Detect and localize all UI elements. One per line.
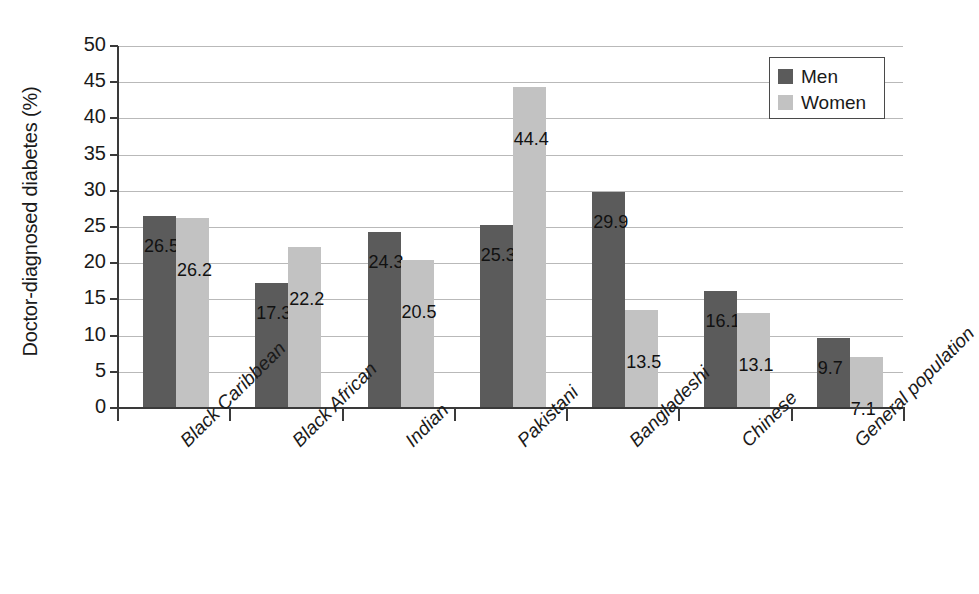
bar-men (704, 291, 737, 408)
bar-value-label: 20.5 (402, 302, 437, 323)
bar-value-label: 24.3 (369, 252, 404, 273)
y-tick-label: 10 (56, 323, 106, 346)
legend-item: Women (778, 89, 884, 115)
bar-value-label: 25.3 (481, 245, 516, 266)
bar-value-label: 29.9 (593, 212, 628, 233)
bar-women (288, 247, 321, 408)
gridline (117, 46, 903, 47)
bar-value-label: 17.3 (256, 303, 291, 324)
y-tick-label: 5 (56, 359, 106, 382)
bar-value-label: 16.1 (705, 311, 740, 332)
bar-value-label: 26.2 (177, 260, 212, 281)
x-tick-mark (117, 408, 119, 421)
legend-label: Men (801, 67, 838, 86)
bar-value-label: 13.5 (626, 352, 661, 373)
bar-value-label: 9.7 (818, 358, 843, 379)
y-axis-title: Doctor-diagnosed diabetes (%) (19, 42, 42, 402)
y-tick-label: 0 (56, 395, 106, 418)
bar-value-label: 44.4 (514, 129, 549, 150)
bar-women (401, 260, 434, 408)
legend-label: Women (801, 93, 866, 112)
x-tick-mark (454, 408, 456, 421)
y-tick-label: 45 (56, 69, 106, 92)
gridline (117, 155, 903, 156)
bar-women (176, 218, 209, 408)
y-tick-label: 50 (56, 33, 106, 56)
y-tick-label: 20 (56, 250, 106, 273)
bar-value-label: 22.2 (289, 289, 324, 310)
gridline (117, 191, 903, 192)
y-tick-label: 35 (56, 142, 106, 165)
legend-swatch-men (778, 69, 793, 84)
legend: MenWomen (769, 57, 885, 119)
y-tick-label: 40 (56, 105, 106, 128)
bar-value-label: 13.1 (738, 355, 773, 376)
legend-swatch-women (778, 95, 793, 110)
y-tick-label: 25 (56, 214, 106, 237)
y-tick-label: 15 (56, 286, 106, 309)
y-axis-tick-labels: 50454035302520151050 (50, 0, 106, 594)
bar-value-label: 26.5 (144, 236, 179, 257)
y-tick-label: 30 (56, 178, 106, 201)
y-axis-line (117, 46, 119, 409)
legend-item: Men (778, 63, 884, 89)
